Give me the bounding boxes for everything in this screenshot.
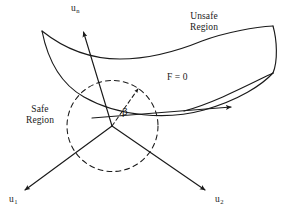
axis-u2-label: u2 [215,194,223,205]
unsafe-region-line1: Unsafe [190,11,218,21]
axis-un [84,32,113,126]
surface-left-lower-edge [42,31,273,116]
beta-angle-label: β [122,105,128,117]
figure-container: Unsafe Region Safe Region F = 0 β un u1 … [0,0,284,217]
unsafe-region-line2: Region [190,22,218,32]
surface-right-edge [273,26,276,73]
axis-un-label: un [71,3,79,14]
safe-region-line2: Region [26,115,54,125]
axis-u1 [25,126,112,190]
axis-u1-label: u1 [9,194,17,205]
axis-u2 [112,126,205,190]
safe-region-label: Safe Region [12,104,68,125]
surface-top-edge [42,26,273,59]
limit-state-equation-label: F = 0 [167,72,188,83]
surface-lower-fold [184,73,273,111]
axis-u1-subscript: 1 [14,198,17,205]
axis-u2-subscript: 2 [220,198,223,205]
axis-un-subscript: n [76,7,79,14]
safe-region-line1: Safe [31,104,48,114]
unsafe-region-label: Unsafe Region [173,11,235,32]
